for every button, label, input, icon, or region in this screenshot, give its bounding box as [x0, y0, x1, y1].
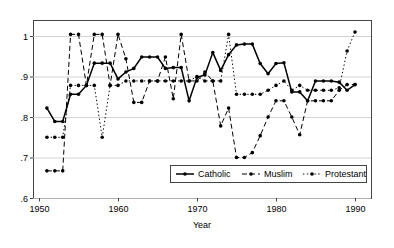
data-point — [258, 134, 262, 138]
data-point — [93, 84, 97, 88]
data-point — [243, 93, 247, 97]
data-point — [148, 55, 152, 59]
legend-marker-muslim — [249, 172, 253, 176]
data-point — [156, 55, 160, 59]
data-point — [322, 79, 326, 83]
data-point — [116, 33, 120, 37]
data-point — [345, 83, 349, 87]
data-point — [274, 84, 278, 88]
data-point — [235, 156, 239, 160]
data-point — [251, 42, 255, 46]
data-point — [211, 51, 215, 55]
data-point — [45, 106, 49, 110]
x-tick-label: 1950 — [29, 204, 49, 214]
legend-label-catholic: Catholic — [198, 169, 231, 179]
data-point — [85, 84, 89, 88]
data-point — [164, 67, 168, 71]
data-point — [172, 97, 176, 101]
data-point — [172, 66, 176, 70]
data-point — [77, 93, 81, 97]
data-point — [314, 79, 318, 83]
data-point — [93, 33, 97, 37]
data-point — [314, 88, 318, 92]
legend-marker-catholic — [183, 172, 187, 176]
data-point — [179, 33, 183, 37]
y-tick-label: .9 — [20, 72, 28, 82]
data-point — [132, 79, 136, 83]
legend-marker-protestant — [310, 172, 314, 176]
data-point — [124, 57, 128, 61]
data-point — [77, 84, 81, 88]
data-point — [61, 169, 65, 173]
series-protestant — [45, 30, 357, 139]
chart-container: .6.7.8.9119501960197019801990YearCatholi… — [0, 0, 394, 248]
data-point — [179, 66, 183, 70]
data-point — [322, 88, 326, 92]
data-point — [243, 156, 247, 160]
data-point — [172, 79, 176, 83]
data-point — [61, 120, 65, 124]
data-point — [251, 93, 255, 97]
data-point — [219, 124, 223, 128]
data-point — [353, 83, 357, 87]
data-point — [53, 169, 57, 173]
data-point — [156, 79, 160, 83]
x-tick-label: 1980 — [266, 204, 286, 214]
legend-label-muslim: Muslim — [264, 169, 293, 179]
data-point — [195, 75, 199, 79]
data-point — [108, 84, 112, 88]
data-point — [132, 101, 136, 105]
legend-label-protestant: Protestant — [325, 169, 367, 179]
data-point — [274, 62, 278, 66]
series-line — [47, 44, 355, 121]
data-point — [290, 115, 294, 119]
data-point — [274, 99, 278, 103]
data-point — [203, 79, 207, 83]
data-point — [251, 151, 255, 155]
x-tick-label: 1990 — [345, 204, 365, 214]
data-point — [195, 79, 199, 83]
data-point — [187, 79, 191, 83]
legend: CatholicMuslimProtestant — [171, 166, 367, 183]
data-point — [124, 70, 128, 74]
data-point — [148, 79, 152, 83]
data-point — [140, 79, 144, 83]
data-point — [235, 43, 239, 47]
data-point — [227, 53, 231, 57]
data-point — [116, 77, 120, 81]
data-point — [322, 99, 326, 103]
data-point — [61, 135, 65, 139]
data-point — [108, 61, 112, 65]
series-line — [47, 34, 355, 170]
data-point — [164, 79, 168, 83]
data-point — [140, 55, 144, 59]
data-point — [235, 93, 239, 97]
data-point — [266, 88, 270, 92]
data-point — [330, 99, 334, 103]
data-point — [314, 99, 318, 103]
y-tick-label: .7 — [20, 153, 28, 163]
series-catholic — [45, 42, 357, 123]
data-point — [298, 90, 302, 94]
data-point — [337, 86, 341, 90]
data-point — [53, 120, 57, 124]
x-tick-label: 1960 — [108, 204, 128, 214]
data-point — [77, 33, 81, 37]
data-point — [132, 67, 136, 71]
x-axis: 19501960197019801990 — [29, 198, 365, 214]
data-point — [45, 135, 49, 139]
y-tick-label: .6 — [20, 194, 28, 204]
data-point — [45, 169, 49, 173]
data-point — [306, 88, 310, 92]
data-point — [100, 135, 104, 139]
line-chart: .6.7.8.9119501960197019801990YearCatholi… — [0, 0, 394, 248]
data-point — [266, 72, 270, 76]
data-point — [100, 61, 104, 65]
data-point — [345, 49, 349, 53]
data-point — [219, 79, 223, 83]
data-point — [282, 61, 286, 65]
data-point — [266, 115, 270, 119]
data-point — [243, 42, 247, 46]
y-tick-label: 1 — [23, 32, 28, 42]
data-point — [227, 33, 231, 37]
